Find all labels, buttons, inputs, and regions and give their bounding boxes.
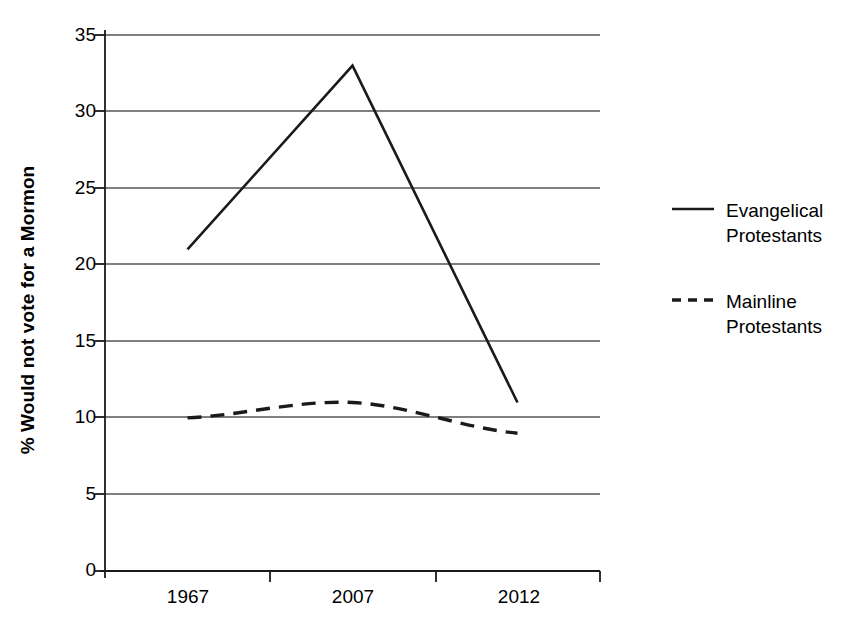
axis-lines	[100, 30, 600, 582]
series-line-evangelical-protestants	[188, 66, 518, 403]
legend	[672, 209, 714, 300]
series-line-mainline-protestants	[188, 402, 518, 433]
chart-figure: % Would not vote for a Mormon 35 30 25 2…	[0, 0, 858, 642]
y-axis-ticks	[95, 35, 105, 571]
gridlines	[105, 35, 600, 494]
x-axis-ticks	[270, 571, 436, 582]
legend-label-evangelical-protestants: Evangelical Protestants	[726, 198, 823, 248]
legend-label-mainline-protestants: Mainline Protestants	[726, 289, 822, 339]
